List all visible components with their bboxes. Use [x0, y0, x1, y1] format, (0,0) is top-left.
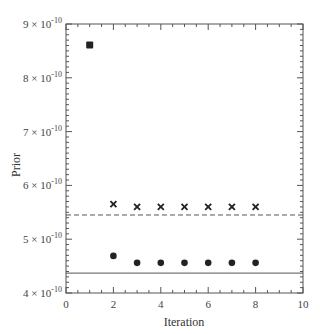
circle-marker: [252, 260, 259, 267]
circle-marker: [110, 253, 117, 260]
x-marker: [205, 204, 211, 210]
y-tick-label: 6 × 10-10: [23, 177, 62, 191]
square-marker: [86, 41, 93, 48]
x-tick-label: 2: [111, 298, 117, 310]
x-marker: [110, 201, 116, 207]
y-axis-label: Prior: [9, 153, 23, 177]
chart: 0246810 4 × 10-105 × 10-106 × 10-107 × 1…: [0, 0, 320, 334]
x-tick-label: 10: [298, 298, 310, 310]
x-axis-label: Iteration: [164, 315, 205, 329]
circle-marker: [158, 260, 165, 267]
plot-border: [66, 24, 303, 293]
plot-frame: [66, 24, 303, 293]
y-tick-label: 5 × 10-10: [23, 231, 62, 245]
y-tick-label: 4 × 10-10: [23, 285, 62, 299]
x-tick-label: 0: [63, 298, 69, 310]
y-tick-label: 8 × 10-10: [23, 70, 62, 84]
data-points: [86, 41, 259, 266]
y-tick-labels: 4 × 10-105 × 10-106 × 10-107 × 10-108 × …: [23, 16, 62, 299]
y-tick-label: 9 × 10-10: [23, 16, 62, 30]
x-tick-label: 4: [158, 298, 164, 310]
x-marker: [253, 204, 259, 210]
x-marker: [229, 204, 235, 210]
x-marker: [182, 204, 188, 210]
circle-marker: [134, 260, 141, 267]
circle-marker: [205, 260, 212, 267]
x-tick-label: 8: [253, 298, 259, 310]
circle-marker: [229, 260, 236, 267]
x-marker: [134, 204, 140, 210]
x-marker: [158, 204, 164, 210]
x-tick-labels: 0246810: [63, 298, 309, 310]
circle-marker: [181, 260, 188, 267]
y-tick-label: 7 × 10-10: [23, 124, 62, 138]
x-tick-label: 6: [205, 298, 211, 310]
axis-ticks: [66, 24, 303, 293]
